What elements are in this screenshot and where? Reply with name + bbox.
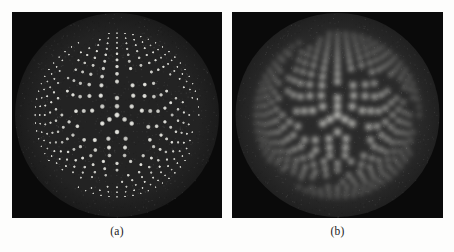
panel-b-image (232, 12, 443, 218)
panel-b-group: (b) (0, 0, 454, 252)
figure-root: (a) (b) (0, 0, 454, 252)
panel-b-caption: (b) (232, 224, 443, 238)
